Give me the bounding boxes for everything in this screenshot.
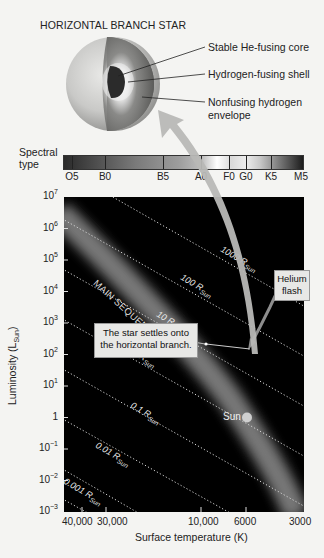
x-axis-label: Surface temperature (K) <box>135 531 248 543</box>
spectral-tick-A0 <box>201 156 202 169</box>
sun-marker <box>242 413 252 423</box>
y-tick-exp: 7 <box>54 188 58 195</box>
y-tick-base: 10 <box>39 505 50 516</box>
y-tick-1e7: 107 <box>43 190 58 201</box>
spectral-label-B0: B0 <box>99 171 111 182</box>
spectral-label-B5: B5 <box>157 171 169 182</box>
y-tick-base: 10 <box>43 222 54 233</box>
spectral-tick-M5 <box>301 156 302 169</box>
y-tick-exp: 1 <box>54 377 58 384</box>
y-tick-1e1: 101 <box>43 379 58 390</box>
callout-horizontal-branch-line1: The star settles onto <box>100 327 192 339</box>
y-tick-1e3: 103 <box>43 316 58 327</box>
x-tick-40000: 40,000 <box>62 516 93 528</box>
y-axis-tick-labels: 107 106 105 104 103 102 101 1 10−1 10−2 … <box>20 0 58 558</box>
sun-label: Sun <box>223 411 241 423</box>
y-tick-base: 10 <box>43 285 54 296</box>
spectral-label-K5: K5 <box>265 171 277 182</box>
spectral-tick-O5 <box>72 156 73 169</box>
callout-helium-flash-line1: Helium <box>277 273 307 285</box>
x-tick-6000: 6000 <box>234 516 256 528</box>
spectral-tick-B0 <box>105 156 106 169</box>
y-tick-exp: −2 <box>50 472 58 479</box>
label-nonfusing-envelope-line2: envelope <box>208 109 251 121</box>
y-tick-base: 10 <box>39 474 50 485</box>
x-tick-10000: 10,000 <box>188 516 219 528</box>
y-tick-exp: 3 <box>54 314 58 321</box>
y-tick-1e-1: 10−1 <box>39 442 58 453</box>
callout-helium-flash: Helium flash <box>274 270 310 301</box>
y-axis-label-sub: Sun <box>13 330 20 342</box>
y-tick-exp: −3 <box>50 503 58 510</box>
y-tick-exp: 5 <box>54 251 58 258</box>
y-tick-base: 1 <box>52 411 58 422</box>
spectral-label-G0: G0 <box>239 171 252 182</box>
label-he-fusing-core: Stable He-fusing core <box>208 41 309 53</box>
y-tick-1e2: 102 <box>43 348 58 359</box>
y-tick-1e-3: 10−3 <box>39 505 58 516</box>
y-tick-base: 10 <box>43 253 54 264</box>
y-tick-1e-2: 10−2 <box>39 474 58 485</box>
y-tick-base: 10 <box>43 316 54 327</box>
label-nonfusing-envelope: Nonfusing hydrogen <box>208 96 302 108</box>
spectral-label-A0: A0 <box>195 171 207 182</box>
callout-horizontal-branch: The star settles onto the horizontal bra… <box>94 323 198 358</box>
y-tick-base: 10 <box>43 348 54 359</box>
x-tick-3000: 3000 <box>289 516 311 528</box>
spectral-tick-K5 <box>271 156 272 169</box>
spectral-type-bar <box>63 155 304 170</box>
spectral-tick-G0 <box>246 156 247 169</box>
y-tick-1e6: 106 <box>43 222 58 233</box>
y-tick-exp: 4 <box>54 283 58 290</box>
y-tick-exp: 2 <box>54 346 58 353</box>
spectral-label-F0: F0 <box>223 171 235 182</box>
y-axis-label-text: Luminosity (L <box>6 343 18 405</box>
y-tick-1e4: 104 <box>43 285 58 296</box>
callout-horizontal-branch-line2: the horizontal branch. <box>100 339 192 351</box>
x-tick-30000: 30,000 <box>97 516 128 528</box>
spectral-label-O5: O5 <box>65 171 78 182</box>
y-axis-label-end: ) <box>6 327 18 331</box>
y-tick-exp: 6 <box>54 220 58 227</box>
y-tick-1e5: 105 <box>43 253 58 264</box>
spectral-tick-F0 <box>229 156 230 169</box>
y-tick-base: 10 <box>39 442 50 453</box>
spectral-tick-B5 <box>163 156 164 169</box>
label-hydrogen-fusing-shell: Hydrogen-fusing shell <box>208 68 310 80</box>
y-tick-base: 10 <box>43 190 54 201</box>
callout-helium-flash-line2: flash <box>277 285 307 297</box>
y-tick-1: 1 <box>52 411 58 422</box>
spectral-label-M5: M5 <box>294 171 308 182</box>
y-tick-exp: −1 <box>50 440 58 447</box>
y-axis-label: Luminosity (LSun) <box>6 327 21 405</box>
y-tick-base: 10 <box>43 379 54 390</box>
